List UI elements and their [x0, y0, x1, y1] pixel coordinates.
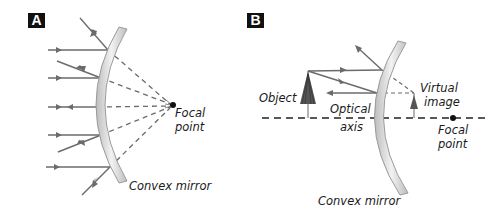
panel-label-a: A [28, 13, 45, 28]
reflected-ray-arrows [67, 29, 98, 183]
panel-b [262, 41, 487, 195]
reflected-ray-arrowheads [78, 29, 98, 188]
panel-label-b: B [247, 13, 264, 28]
object-label: Object [259, 92, 296, 105]
focal-point-label-b-line1: Focal [438, 124, 468, 137]
object-tree [300, 71, 316, 118]
incident-ray-arrows-b [338, 67, 347, 84]
virtual-image-label-line2: image [424, 96, 460, 109]
convex-mirror-label-b: Convex mirror [318, 195, 400, 208]
convex-mirror-b [374, 41, 408, 195]
virtual-image-label-line1: Virtual [420, 82, 458, 95]
incident-rays-b [308, 70, 382, 93]
convex-mirror-label-a: Convex mirror [129, 180, 211, 193]
virtual-image-tree [410, 93, 418, 118]
focal-point-label-b-line2: point [438, 138, 467, 151]
focal-point-label-a-line2: point [175, 121, 204, 134]
focal-point-label-a-line1: Focal [175, 107, 205, 120]
convex-mirror-diagram [0, 0, 501, 221]
panel-a [46, 18, 176, 195]
optical-axis-label-line1: Optical [330, 103, 371, 116]
optical-axis-label-line2: axis [340, 121, 363, 134]
focal-point-b [450, 115, 456, 121]
